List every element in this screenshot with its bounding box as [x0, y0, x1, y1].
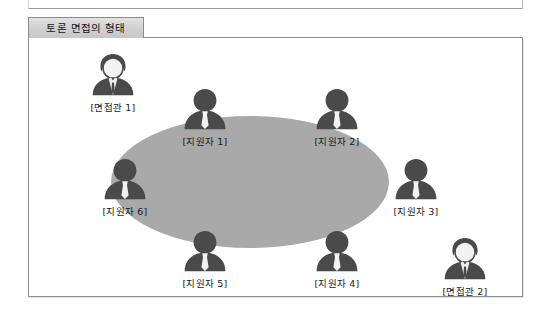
person-label-applicant-4: [지원자 4] — [315, 279, 360, 289]
person-label-applicant-3: [지원자 3] — [394, 207, 439, 217]
person-applicant-1: [지원자 1] — [173, 86, 237, 149]
person-applicant-icon — [173, 86, 237, 130]
person-applicant-3: [지원자 3] — [384, 156, 448, 219]
person-applicant-6: [지원자 6] — [93, 156, 157, 219]
figure-title-tab: 토론 면접의 형태 — [28, 17, 144, 38]
person-applicant-icon — [173, 228, 237, 272]
diagram-frame: [면접관 1][지원자 1][지원자 2][지원자 3][지원자 4][지원자 … — [28, 37, 523, 297]
person-label-interviewer-1: [면접관 1] — [91, 103, 136, 113]
person-label-interviewer-2: [면접관 2] — [443, 287, 488, 297]
person-applicant-icon — [305, 86, 369, 130]
person-applicant-icon — [305, 228, 369, 272]
person-applicant-icon — [384, 156, 448, 200]
previous-figure-bottom-edge — [28, 0, 523, 9]
figure-title: 토론 면접의 형태 — [46, 23, 125, 34]
person-label-applicant-5: [지원자 5] — [183, 279, 228, 289]
person-label-applicant-6: [지원자 6] — [103, 207, 148, 217]
person-applicant-5: [지원자 5] — [173, 228, 237, 291]
person-applicant-4: [지원자 4] — [305, 228, 369, 291]
person-interviewer-icon — [81, 52, 145, 96]
figure-page: 토론 면접의 형태 [면접관 1][지원자 1][지원자 2][지원자 3][지… — [0, 0, 550, 318]
person-label-applicant-2: [지원자 2] — [315, 137, 360, 147]
person-interviewer-icon — [433, 236, 497, 280]
person-applicant-2: [지원자 2] — [305, 86, 369, 149]
person-interviewer-1: [면접관 1] — [81, 52, 145, 115]
person-applicant-icon — [93, 156, 157, 200]
person-label-applicant-1: [지원자 1] — [183, 137, 228, 147]
person-interviewer-2: [면접관 2] — [433, 236, 497, 299]
